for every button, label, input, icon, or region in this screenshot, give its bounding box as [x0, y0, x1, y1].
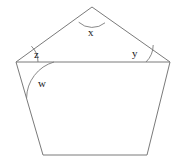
- geometry-figure: x y z w: [0, 0, 182, 166]
- angle-label-x: x: [88, 27, 94, 38]
- angle-label-y: y: [132, 48, 138, 59]
- angle-label-w: w: [38, 78, 46, 89]
- angle-label-z: z: [34, 49, 39, 60]
- geometry-canvas: [0, 0, 182, 166]
